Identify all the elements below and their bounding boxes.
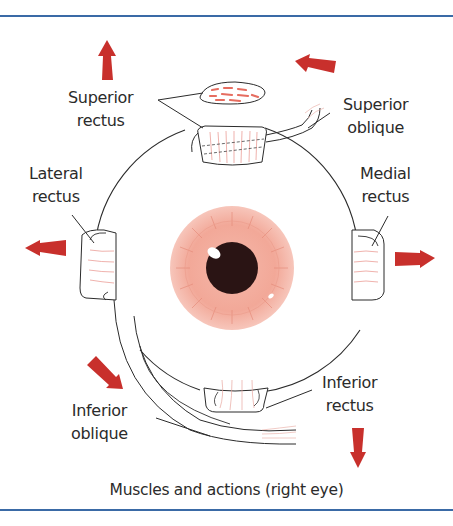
superior-rectus-section — [200, 82, 265, 104]
label-line: rectus — [68, 109, 133, 132]
label-lateral-rectus: Lateral rectus — [29, 162, 83, 208]
arrow-down-right-icon — [87, 356, 123, 389]
medial-rectus-muscle — [352, 230, 384, 300]
arrow-up-icon — [98, 40, 116, 80]
label-line: rectus — [29, 185, 83, 208]
label-inferior-rectus: Inferior rectus — [322, 371, 377, 417]
label-line: Superior — [343, 93, 408, 116]
arrow-left-icon — [295, 54, 336, 73]
label-line: rectus — [360, 185, 411, 208]
label-medial-rectus: Medial rectus — [360, 162, 411, 208]
eye-muscles-diagram — [0, 0, 453, 526]
arrow-left-icon — [25, 240, 66, 256]
label-inferior-oblique: Inferior oblique — [71, 399, 128, 445]
label-line: oblique — [71, 422, 128, 445]
diagram-caption: Muscles and actions (right eye) — [0, 481, 453, 499]
lateral-rectus-muscle — [80, 230, 116, 300]
label-line: oblique — [343, 116, 408, 139]
inferior-rectus-muscle — [204, 380, 268, 412]
label-superior-rectus: Superior rectus — [68, 86, 133, 132]
label-line: Medial — [360, 162, 411, 185]
label-superior-oblique: Superior oblique — [343, 93, 408, 139]
label-line: Inferior — [322, 371, 377, 394]
label-line: Inferior — [71, 399, 128, 422]
label-line: Superior — [68, 86, 133, 109]
superior-rectus-muscle — [192, 126, 267, 165]
arrow-down-icon — [350, 428, 366, 468]
label-line: rectus — [322, 394, 377, 417]
label-line: Lateral — [29, 162, 83, 185]
arrow-right-icon — [395, 250, 435, 268]
